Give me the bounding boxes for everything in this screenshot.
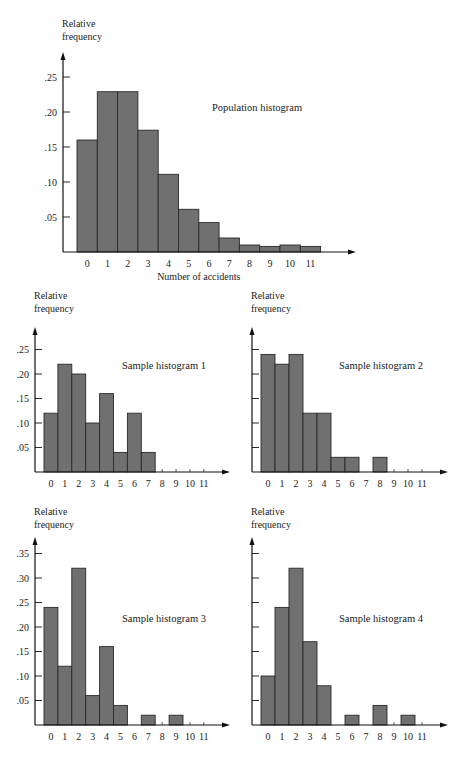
y-tick-label: .05 bbox=[17, 442, 30, 453]
bar-9 bbox=[169, 715, 183, 725]
arrow-right-icon bbox=[222, 470, 230, 475]
x-tick-label: 6 bbox=[350, 731, 355, 742]
x-tick-label: 4 bbox=[322, 478, 327, 489]
bar-10 bbox=[280, 245, 300, 252]
bar-4 bbox=[317, 413, 331, 472]
bar-11 bbox=[300, 246, 320, 252]
x-tick-label: 0 bbox=[49, 731, 54, 742]
x-tick-label: 0 bbox=[266, 731, 271, 742]
x-tick-label: 0 bbox=[266, 478, 271, 489]
chart-population: Relativefrequency.05.10.15.20.2501234567… bbox=[45, 18, 357, 282]
x-tick-label: 0 bbox=[49, 478, 54, 489]
bar-7 bbox=[141, 452, 155, 472]
x-tick-label: 11 bbox=[417, 731, 427, 742]
x-tick-label: 7 bbox=[146, 731, 151, 742]
bars bbox=[44, 568, 183, 725]
bar-8 bbox=[239, 245, 259, 252]
x-tick-label: 8 bbox=[378, 731, 383, 742]
x-tick-label: 6 bbox=[132, 731, 137, 742]
y-tick-label: .25 bbox=[45, 72, 58, 83]
chart-sample3: Relativefrequency.05.10.15.20.25.30.3501… bbox=[17, 506, 231, 742]
bar-9 bbox=[260, 246, 280, 252]
y-tick-label: .10 bbox=[45, 177, 58, 188]
x-tick-label: 1 bbox=[62, 478, 67, 489]
y-tick-label: .10 bbox=[17, 671, 30, 682]
y-tick-label: .30 bbox=[17, 573, 30, 584]
bar-2 bbox=[289, 568, 303, 725]
x-tick-label: 1 bbox=[280, 731, 285, 742]
x-tick-label: 5 bbox=[118, 731, 123, 742]
y-tick-label: .25 bbox=[17, 597, 30, 608]
x-tick-label: 0 bbox=[85, 258, 90, 269]
arrow-up-icon bbox=[33, 537, 38, 545]
bars bbox=[261, 354, 387, 472]
x-tick-label: 6 bbox=[132, 478, 137, 489]
x-tick-label: 5 bbox=[336, 478, 341, 489]
histogram-figure: Relativefrequency.05.10.15.20.2501234567… bbox=[0, 0, 471, 768]
x-tick-label: 10 bbox=[403, 731, 413, 742]
y-axis-label: Relative bbox=[251, 290, 285, 301]
x-tick-label: 10 bbox=[403, 478, 413, 489]
x-tick-label: 2 bbox=[294, 731, 299, 742]
y-axis-label: Relative bbox=[34, 290, 68, 301]
x-tick-label: 9 bbox=[267, 258, 272, 269]
arrow-up-icon bbox=[250, 327, 255, 335]
x-tick-label: 1 bbox=[105, 258, 110, 269]
x-tick-label: 9 bbox=[174, 478, 179, 489]
x-tick-label: 11 bbox=[417, 478, 427, 489]
arrow-up-icon bbox=[33, 327, 38, 335]
arrow-right-icon bbox=[222, 723, 230, 728]
bar-2 bbox=[72, 374, 86, 472]
y-axis-label: Relative bbox=[251, 506, 285, 517]
x-tick-label: 3 bbox=[146, 258, 151, 269]
bar-4 bbox=[100, 647, 114, 725]
bar-1 bbox=[275, 607, 289, 725]
bars bbox=[77, 92, 321, 252]
x-tick-label: 7 bbox=[364, 731, 369, 742]
y-axis-label: frequency bbox=[251, 519, 291, 530]
x-tick-label: 9 bbox=[392, 478, 397, 489]
x-tick-label: 3 bbox=[90, 731, 95, 742]
x-tick-label: 7 bbox=[146, 478, 151, 489]
x-tick-label: 10 bbox=[285, 258, 295, 269]
bar-5 bbox=[114, 705, 128, 725]
x-tick-label: 2 bbox=[76, 478, 81, 489]
x-tick-label: 7 bbox=[364, 478, 369, 489]
y-axis-label: Relative bbox=[34, 506, 68, 517]
x-tick-label: 8 bbox=[160, 731, 165, 742]
x-tick-label: 11 bbox=[199, 731, 209, 742]
x-tick-label: 8 bbox=[378, 478, 383, 489]
arrow-right-icon bbox=[440, 723, 448, 728]
x-tick-label: 3 bbox=[308, 478, 313, 489]
x-tick-label: 4 bbox=[104, 478, 109, 489]
y-tick-label: .20 bbox=[17, 369, 30, 380]
x-tick-label: 5 bbox=[186, 258, 191, 269]
bar-4 bbox=[158, 174, 178, 252]
chart-sample2: Relativefrequency01234567891011Sample hi… bbox=[250, 290, 449, 489]
bars bbox=[44, 364, 155, 472]
chart-title: Population histogram bbox=[212, 102, 302, 113]
x-tick-label: 7 bbox=[227, 258, 232, 269]
bar-6 bbox=[345, 715, 359, 725]
bar-6 bbox=[345, 457, 359, 472]
x-tick-label: 9 bbox=[174, 731, 179, 742]
y-axis-label: frequency bbox=[62, 31, 102, 42]
chart-sample1: Relativefrequency.05.10.15.20.2501234567… bbox=[17, 290, 231, 489]
bars bbox=[261, 568, 415, 725]
y-axis-label: frequency bbox=[34, 303, 74, 314]
bar-3 bbox=[86, 423, 100, 472]
x-tick-label: 4 bbox=[166, 258, 171, 269]
y-axis-label: frequency bbox=[34, 519, 74, 530]
x-tick-label: 4 bbox=[104, 731, 109, 742]
x-tick-label: 9 bbox=[392, 731, 397, 742]
chart-title: Sample histogram 3 bbox=[122, 613, 206, 624]
arrow-up-icon bbox=[250, 537, 255, 545]
bar-4 bbox=[317, 686, 331, 725]
arrow-right-icon bbox=[440, 470, 448, 475]
chart-title: Sample histogram 2 bbox=[339, 360, 423, 371]
bar-0 bbox=[77, 140, 97, 252]
bar-8 bbox=[373, 705, 387, 725]
y-tick-label: .15 bbox=[45, 142, 58, 153]
y-axis-label: frequency bbox=[251, 303, 291, 314]
x-tick-label: 8 bbox=[247, 258, 252, 269]
